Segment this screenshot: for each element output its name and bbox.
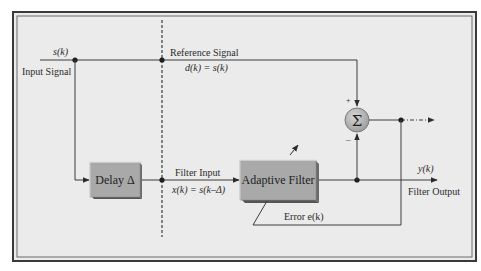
sum-symbol: Σ [352, 112, 363, 130]
delay-block-label: Delay Δ [95, 173, 135, 187]
minus-sign: – [345, 134, 351, 144]
delay-block: Delay Δ [90, 162, 142, 199]
reference-equation: d(k) = s(k) [185, 62, 229, 74]
error-label: Error e(k) [284, 211, 324, 223]
reference-signal-label: Reference Signal [170, 47, 239, 58]
plus-sign: + [346, 96, 351, 105]
frame [13, 12, 476, 261]
input-symbol: s(k) [53, 46, 69, 58]
adaptive-filter-label: Adaptive Filter [242, 173, 315, 187]
junction-dot-filter-input [159, 177, 164, 182]
filter-output-label: Filter Output [408, 186, 460, 197]
filter-input-label: Filter Input [175, 167, 220, 178]
input-signal-label: Input Signal [22, 66, 71, 77]
output-symbol: y(k) [417, 163, 434, 175]
filter-input-equation: x(k) = s(k–Δ) [171, 184, 226, 196]
adaptive-filter-diagram: Delay Δ Adaptive Filter Σ + – s(k) Input… [0, 0, 481, 271]
summing-junction: Σ [345, 108, 369, 132]
junction-dot-reference [159, 57, 164, 62]
adaptive-filter-block: Adaptive Filter [240, 160, 319, 203]
